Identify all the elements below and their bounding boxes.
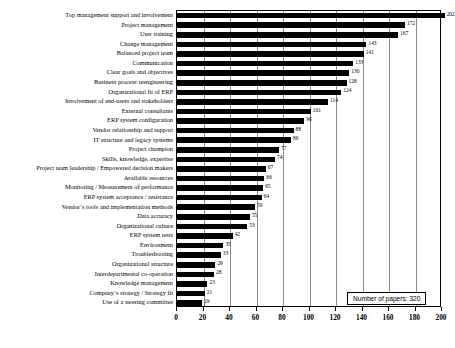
bar (177, 291, 205, 297)
category-label: Environment (0, 240, 175, 250)
category-label: Knowledge management (0, 278, 175, 288)
bar (177, 118, 304, 124)
category-axis-labels: Top management support and involvementPr… (0, 10, 175, 307)
bar (177, 176, 264, 182)
bar (177, 185, 263, 191)
bar-value-label: 29 (217, 259, 222, 268)
category-label: Organizational structure (0, 259, 175, 269)
x-tick-label: 180 (409, 313, 420, 322)
bar-value-label: 141 (366, 48, 374, 57)
category-label: External consultants (0, 106, 175, 116)
bar (177, 204, 255, 210)
bar-value-label: 23 (209, 278, 214, 287)
bar-value-label: 128 (349, 77, 357, 86)
category-label: Project team leadership / Empowered deci… (0, 163, 175, 173)
x-tick-mark (203, 307, 204, 311)
bar-value-label: 130 (351, 67, 359, 76)
x-tick-label: 60 (252, 313, 259, 322)
x-tick-mark (309, 307, 310, 311)
bar-row: 124 (177, 88, 440, 98)
x-tick-label: 200 (435, 313, 446, 322)
category-label: Organizational fit of ERP (0, 87, 175, 97)
bar-value-label: 21 (207, 288, 212, 297)
bar-row: 202 (177, 11, 440, 21)
bar-value-label: 96 (306, 115, 311, 124)
x-tick-mark (229, 307, 230, 311)
bar (177, 80, 347, 86)
bar-value-label: 35 (225, 240, 230, 249)
category-label: ERP system tests (0, 230, 175, 240)
bar-value-label: 202 (447, 10, 455, 19)
bar-value-label: 66 (266, 173, 271, 182)
bar-value-label: 59 (257, 201, 262, 210)
bar (177, 61, 353, 67)
category-label: IT structure and legacy systems (0, 135, 175, 145)
bar-row: 77 (177, 145, 440, 155)
bar-value-label: 55 (252, 211, 257, 220)
category-label: Data accuracy (0, 211, 175, 221)
category-label: Project management (0, 20, 175, 30)
category-label: ERP system acceptance / resistance (0, 192, 175, 202)
category-label: Troubleshooting (0, 249, 175, 259)
bar-value-label: 124 (343, 86, 351, 95)
bar (177, 157, 275, 163)
bar (177, 214, 250, 220)
bar (177, 90, 341, 96)
bar-value-label: 65 (265, 182, 270, 191)
category-label: Available resources (0, 173, 175, 183)
bar (177, 300, 202, 306)
bar-value-label: 19 (204, 297, 209, 306)
bar-value-label: 88 (296, 125, 301, 134)
bar-row: 143 (177, 40, 440, 50)
x-tick-mark (441, 307, 442, 311)
category-label: Skills, knowledge, expertise (0, 154, 175, 164)
x-tick-label: 20 (199, 313, 206, 322)
bar-row: 59 (177, 203, 440, 213)
bar (177, 137, 291, 143)
x-tick-label: 120 (329, 313, 340, 322)
bar-row: 64 (177, 193, 440, 203)
bar-value-label: 64 (264, 192, 269, 201)
plot-area: 2021721671431411331301281241141019688867… (176, 10, 441, 307)
category-label: Interdepartmental co-operation (0, 269, 175, 279)
bar-value-label: 67 (268, 163, 273, 172)
bar-value-label: 42 (235, 230, 240, 239)
bar-value-label: 133 (355, 58, 363, 67)
bar-row: 65 (177, 183, 440, 193)
x-tick-mark (335, 307, 336, 311)
bar-rows: 2021721671431411331301281241141019688867… (177, 11, 440, 306)
x-tick-label: 40 (225, 313, 232, 322)
x-tick-mark (256, 307, 257, 311)
bar (177, 128, 294, 134)
category-label: Communication (0, 58, 175, 68)
bar-row: 88 (177, 126, 440, 136)
bar-value-label: 114 (330, 96, 338, 105)
bar-row: 86 (177, 136, 440, 146)
category-label: Involvement of end-users and stakeholder… (0, 96, 175, 106)
bar (177, 147, 279, 153)
bar-value-label: 143 (368, 39, 376, 48)
bar-value-label: 33 (223, 249, 228, 258)
x-tick-label: 140 (356, 313, 367, 322)
bar-value-label: 172 (407, 19, 415, 28)
x-tick-label: 0 (174, 313, 178, 322)
bar (177, 281, 207, 287)
x-tick-mark (176, 307, 177, 311)
category-label: Change management (0, 39, 175, 49)
x-tick-label: 100 (303, 313, 314, 322)
bar-value-label: 28 (216, 268, 221, 277)
category-label: User training (0, 29, 175, 39)
bar-row: 96 (177, 116, 440, 126)
bar (177, 32, 398, 38)
bar (177, 13, 445, 19)
bar-row: 114 (177, 97, 440, 107)
x-tick-label: 160 (382, 313, 393, 322)
bar-row: 128 (177, 78, 440, 88)
bar-row: 53 (177, 222, 440, 232)
category-label: Clear goals and objectives (0, 67, 175, 77)
legend-box: Number of papers: 320 (347, 292, 426, 305)
bar-row: 66 (177, 174, 440, 184)
bar-row: 23 (177, 279, 440, 289)
category-label: Organizational culture (0, 221, 175, 231)
